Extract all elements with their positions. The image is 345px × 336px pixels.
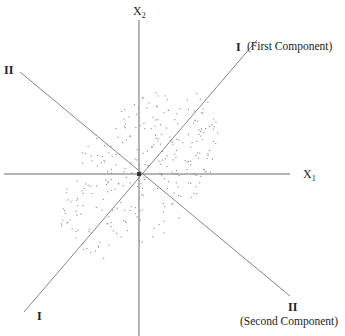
scatter-point bbox=[83, 188, 84, 189]
scatter-point bbox=[124, 126, 125, 127]
scatter-point bbox=[144, 179, 145, 180]
scatter-point bbox=[127, 230, 128, 231]
scatter-point bbox=[66, 188, 67, 189]
scatter-point bbox=[122, 142, 123, 143]
scatter-point bbox=[151, 147, 152, 148]
scatter-point bbox=[201, 112, 202, 113]
scatter-point bbox=[157, 138, 158, 139]
scatter-point bbox=[187, 162, 188, 163]
scatter-point bbox=[200, 131, 201, 132]
scatter-point bbox=[157, 119, 158, 120]
scatter-point bbox=[89, 229, 90, 230]
scatter-point bbox=[160, 124, 161, 125]
scatter-point bbox=[135, 158, 136, 159]
scatter-point bbox=[193, 193, 194, 194]
scatter-point bbox=[191, 197, 192, 198]
scatter-point bbox=[139, 164, 140, 165]
scatter-point bbox=[130, 182, 131, 183]
scatter-point bbox=[134, 104, 135, 105]
scatter-point bbox=[137, 186, 138, 187]
scatter-point bbox=[77, 198, 78, 199]
scatter-point bbox=[101, 162, 102, 163]
scatter-point bbox=[90, 186, 91, 187]
scatter-point bbox=[124, 109, 125, 110]
scatter-point bbox=[147, 151, 148, 152]
scatter-point bbox=[112, 156, 113, 157]
scatter-point bbox=[116, 154, 117, 155]
scatter-point bbox=[173, 159, 174, 160]
scatter-point bbox=[120, 202, 121, 203]
scatter-point bbox=[106, 143, 107, 144]
scatter-point bbox=[102, 156, 103, 157]
scatter-point bbox=[176, 139, 177, 140]
scatter-point bbox=[194, 110, 195, 111]
scatter-point bbox=[144, 128, 145, 129]
scatter-point bbox=[211, 124, 212, 125]
scatter-point bbox=[82, 152, 83, 153]
scatter-point bbox=[204, 171, 205, 172]
scatter-point bbox=[188, 134, 189, 135]
scatter-point bbox=[68, 199, 69, 200]
scatter-point bbox=[165, 158, 166, 159]
scatter-point bbox=[200, 136, 201, 137]
scatter-point bbox=[65, 213, 66, 214]
scatter-point bbox=[200, 99, 201, 100]
scatter-point bbox=[102, 210, 103, 211]
scatter-point bbox=[156, 92, 157, 93]
scatter-point bbox=[172, 142, 173, 143]
scatter-point bbox=[103, 199, 104, 200]
scatter-point bbox=[121, 111, 122, 112]
scatter-point bbox=[174, 154, 175, 155]
scatter-point bbox=[199, 182, 200, 183]
scatter-point bbox=[125, 127, 126, 128]
scatter-point bbox=[179, 217, 180, 218]
second-component-line bbox=[20, 72, 290, 296]
scatter-point bbox=[111, 190, 112, 191]
scatter-point bbox=[168, 110, 169, 111]
scatter-point bbox=[164, 178, 165, 179]
scatter-point bbox=[170, 140, 171, 141]
scatter-point bbox=[98, 247, 99, 248]
scatter-point bbox=[141, 183, 142, 184]
scatter-point bbox=[207, 158, 208, 159]
scatter-point bbox=[70, 201, 71, 202]
scatter-point bbox=[164, 232, 165, 233]
scatter-point bbox=[103, 258, 104, 259]
scatter-point bbox=[107, 223, 108, 224]
scatter-point bbox=[217, 133, 218, 134]
scatter-point bbox=[88, 231, 89, 232]
origin-marker bbox=[137, 172, 141, 176]
scatter-point bbox=[151, 128, 152, 129]
scatter-point bbox=[143, 195, 144, 196]
scatter-point bbox=[201, 128, 202, 129]
scatter-point bbox=[162, 160, 163, 161]
scatter-point bbox=[196, 193, 197, 194]
pca-diagram: X2 X1 I (First Component) II I II (Secon… bbox=[0, 0, 345, 336]
scatter-point bbox=[195, 186, 196, 187]
scatter-point bbox=[202, 113, 203, 114]
scatter-point bbox=[171, 204, 172, 205]
first-component-numeral: I bbox=[236, 41, 241, 53]
scatter-point bbox=[171, 140, 172, 141]
scatter-point bbox=[180, 196, 181, 197]
scatter-point bbox=[199, 153, 200, 154]
scatter-point bbox=[162, 151, 163, 152]
scatter-point bbox=[144, 177, 145, 178]
scatter-point bbox=[197, 121, 198, 122]
scatter-point bbox=[148, 165, 149, 166]
scatter-point bbox=[76, 215, 77, 216]
scatter-point bbox=[62, 220, 63, 221]
scatter-point bbox=[126, 177, 127, 178]
scatter-point bbox=[197, 152, 198, 153]
scatter-point bbox=[180, 108, 181, 109]
scatter-point bbox=[210, 172, 211, 173]
scatter-point bbox=[136, 159, 137, 160]
scatter-point bbox=[161, 134, 162, 135]
scatter-point bbox=[64, 210, 65, 211]
scatter-point bbox=[138, 107, 139, 108]
scatter-point bbox=[188, 182, 189, 183]
scatter-point bbox=[174, 119, 175, 120]
scatter-point bbox=[130, 210, 131, 211]
scatter-point bbox=[152, 236, 153, 237]
scatter-point bbox=[128, 116, 129, 117]
